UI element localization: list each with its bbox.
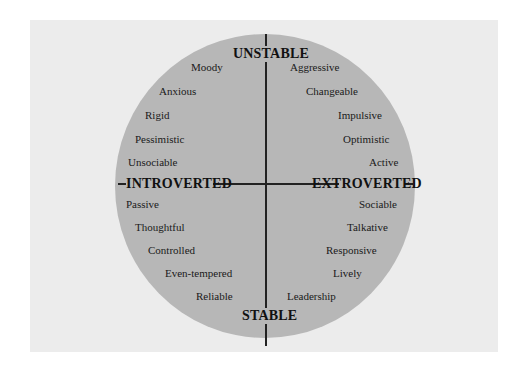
trait-changeable: Changeable — [306, 85, 358, 98]
trait-talkative: Talkative — [347, 221, 388, 234]
axis-label-unstable: UNSTABLE — [231, 46, 311, 62]
trait-sociable: Sociable — [359, 198, 397, 211]
axis-label-extroverted: EXTROVERTED — [312, 176, 422, 192]
trait-passive: Passive — [126, 198, 159, 211]
trait-anxious: Anxious — [159, 85, 196, 98]
trait-lively: Lively — [333, 267, 362, 280]
trait-thoughtful: Thoughtful — [135, 221, 185, 234]
trait-active: Active — [369, 156, 398, 169]
trait-rigid: Rigid — [145, 109, 169, 122]
trait-aggressive: Aggressive — [290, 61, 340, 74]
axis-label-introverted: INTROVERTED — [126, 176, 232, 192]
trait-pessimistic: Pessimistic — [135, 133, 185, 146]
introversion-axis-tick-left — [118, 183, 126, 185]
trait-moody: Moody — [191, 61, 223, 74]
trait-optimistic: Optimistic — [343, 133, 389, 146]
trait-unsociable: Unsociable — [128, 156, 177, 169]
trait-even-tempered: Even-tempered — [165, 267, 232, 280]
trait-controlled: Controlled — [148, 244, 195, 257]
axis-label-stable: STABLE — [240, 308, 299, 324]
trait-impulsive: Impulsive — [338, 109, 382, 122]
trait-leadership: Leadership — [287, 290, 336, 303]
trait-reliable: Reliable — [196, 290, 233, 303]
trait-responsive: Responsive — [326, 244, 377, 257]
stability-axis-line — [265, 34, 267, 346]
